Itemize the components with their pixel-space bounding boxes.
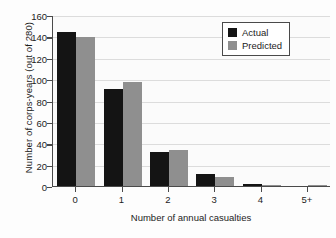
y-tick-label: 80 xyxy=(0,96,47,107)
x-tick-mark xyxy=(168,187,169,192)
y-tick-mark xyxy=(47,187,52,188)
bar-actual-2 xyxy=(150,152,169,186)
bar-predicted-1 xyxy=(123,82,142,186)
y-tick-label: 120 xyxy=(0,53,47,64)
x-tick-mark xyxy=(75,187,76,192)
bar-predicted-2 xyxy=(169,150,188,186)
legend-label-predicted: Predicted xyxy=(242,40,282,51)
bar-chart: Number of corps-years (out of 280) 02040… xyxy=(0,0,336,238)
legend-swatch-actual xyxy=(228,28,237,37)
bar-predicted-3 xyxy=(215,177,234,186)
bar-predicted-4 xyxy=(262,185,281,186)
bar-actual-3 xyxy=(196,174,215,186)
x-tick-label: 5+ xyxy=(287,194,327,205)
chart-legend: Actual Predicted xyxy=(222,22,290,56)
legend-item-predicted: Predicted xyxy=(228,40,282,51)
legend-label-actual: Actual xyxy=(242,27,268,38)
x-tick-label: 1 xyxy=(102,194,142,205)
bar-actual-4 xyxy=(243,184,262,186)
y-tick-label: 140 xyxy=(0,32,47,43)
x-axis-title: Number of annual casualties xyxy=(52,212,330,223)
y-tick-label: 100 xyxy=(0,75,47,86)
x-tick-label: 2 xyxy=(148,194,188,205)
x-tick-label: 3 xyxy=(194,194,234,205)
bar-predicted-5plus xyxy=(308,185,327,186)
y-tick-label: 20 xyxy=(0,160,47,171)
x-tick-mark xyxy=(122,187,123,192)
x-tick-mark xyxy=(261,187,262,192)
x-tick-label: 4 xyxy=(241,194,281,205)
legend-swatch-predicted xyxy=(228,41,237,50)
bar-predicted-0 xyxy=(76,37,95,186)
legend-item-actual: Actual xyxy=(228,27,282,38)
y-tick-label: 40 xyxy=(0,139,47,150)
x-tick-mark xyxy=(214,187,215,192)
bar-actual-1 xyxy=(104,89,123,186)
y-tick-label: 0 xyxy=(0,182,47,193)
bar-actual-0 xyxy=(57,32,76,186)
y-tick-label: 160 xyxy=(0,11,47,22)
x-tick-label: 0 xyxy=(55,194,95,205)
y-tick-label: 60 xyxy=(0,117,47,128)
x-tick-mark xyxy=(307,187,308,192)
gridline xyxy=(53,16,330,17)
